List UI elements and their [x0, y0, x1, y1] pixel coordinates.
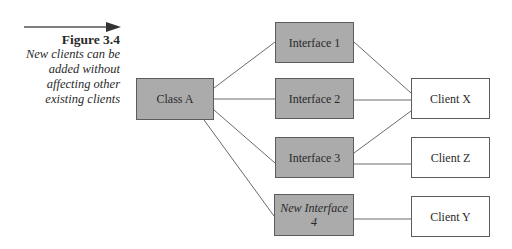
node-client-z: Client Z	[411, 137, 490, 178]
node-client-y: Client Y	[411, 196, 490, 237]
edge-interface-1-client-x	[354, 42, 411, 93]
edge-class-a-interface-3	[214, 110, 275, 163]
node-label: Client X	[430, 92, 471, 106]
node-label-line: 4	[311, 215, 317, 229]
node-new-interface-4: New Interface 4	[274, 194, 354, 236]
node-label: Class A	[156, 92, 193, 106]
edge-class-a-interface-1	[214, 42, 275, 88]
node-interface-2: Interface 2	[275, 78, 354, 119]
edge-interface-3-client-x	[354, 111, 411, 153]
node-interface-3: Interface 3	[275, 137, 354, 178]
node-label: Interface 1	[289, 36, 341, 50]
node-label-line: New Interface	[280, 201, 348, 215]
node-label: Client Y	[430, 210, 471, 224]
edge-class-a-interface-4	[204, 120, 274, 216]
node-label: Interface 2	[289, 92, 341, 106]
node-label: Interface 3	[289, 151, 341, 165]
node-interface-1: Interface 1	[275, 22, 354, 63]
node-label: Client Z	[431, 151, 471, 165]
node-client-x: Client X	[411, 78, 490, 119]
node-class-a: Class A	[136, 78, 214, 120]
